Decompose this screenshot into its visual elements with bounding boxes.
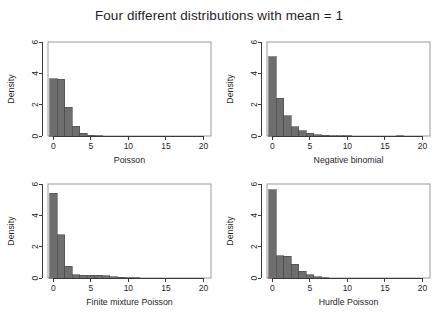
x-tick-label: 15 bbox=[161, 141, 171, 151]
histogram-bar bbox=[269, 190, 277, 278]
x-tick-label: 5 bbox=[307, 141, 312, 151]
histogram-bar bbox=[72, 126, 80, 136]
x-tick-label: 0 bbox=[270, 141, 275, 151]
y-tick-label: 6 bbox=[249, 181, 259, 186]
histogram-bar bbox=[72, 275, 80, 278]
x-tick-label: 5 bbox=[88, 283, 93, 293]
y-tick-label: 4 bbox=[30, 71, 40, 76]
histogram-bar bbox=[57, 235, 65, 278]
x-axis-title: Negative binomial bbox=[314, 155, 384, 165]
histogram-bar bbox=[306, 275, 314, 278]
histogram-bar bbox=[276, 256, 284, 278]
y-tick-label: 0 bbox=[30, 275, 40, 280]
y-tick-label: 2 bbox=[249, 102, 259, 107]
chart-panel-negative-binomial: 051015200246Negative binomialDensity bbox=[219, 28, 438, 174]
plot-svg: 051015200246Hurdle PoissonDensity bbox=[219, 170, 438, 316]
y-axis-title: Density bbox=[6, 74, 16, 104]
x-tick-label: 15 bbox=[380, 283, 390, 293]
y-axis-title: Density bbox=[225, 74, 235, 104]
histogram-bar bbox=[50, 79, 58, 136]
y-tick-label: 4 bbox=[30, 213, 40, 218]
y-tick-label: 4 bbox=[249, 213, 259, 218]
x-tick-label: 20 bbox=[418, 283, 428, 293]
histogram-bar bbox=[299, 131, 307, 136]
histogram-bar bbox=[50, 193, 58, 278]
histogram-bar bbox=[284, 116, 292, 136]
y-axis-title: Density bbox=[6, 216, 16, 246]
x-tick-label: 15 bbox=[380, 141, 390, 151]
chart-panel-poisson: 051015200246PoissonDensity bbox=[0, 28, 219, 174]
y-tick-label: 2 bbox=[30, 102, 40, 107]
x-tick-label: 0 bbox=[270, 283, 275, 293]
plot-svg: 051015200246PoissonDensity bbox=[0, 28, 219, 174]
plot-frame bbox=[267, 184, 430, 278]
x-axis-title: Poisson bbox=[114, 155, 145, 165]
histogram-bar bbox=[291, 127, 299, 136]
histogram-bar bbox=[276, 98, 284, 136]
x-tick-label: 0 bbox=[51, 141, 56, 151]
x-axis-title: Finite mixture Poisson bbox=[86, 297, 173, 307]
x-tick-label: 20 bbox=[199, 283, 209, 293]
x-axis-title: Hurdle Poisson bbox=[319, 297, 379, 307]
y-tick-label: 4 bbox=[249, 71, 259, 76]
histogram-bar bbox=[57, 79, 65, 136]
chart-panel-hurdle-poisson: 051015200246Hurdle PoissonDensity bbox=[219, 170, 438, 316]
x-tick-label: 20 bbox=[199, 141, 209, 151]
x-tick-label: 0 bbox=[51, 283, 56, 293]
x-tick-label: 10 bbox=[343, 283, 353, 293]
plot-frame bbox=[267, 42, 430, 136]
y-tick-label: 6 bbox=[30, 181, 40, 186]
y-tick-label: 0 bbox=[249, 133, 259, 138]
plot-frame bbox=[48, 42, 211, 136]
x-tick-label: 5 bbox=[88, 141, 93, 151]
x-tick-label: 5 bbox=[307, 283, 312, 293]
figure-canvas: Four different distributions with mean =… bbox=[0, 0, 438, 316]
plot-svg: 051015200246Finite mixture PoissonDensit… bbox=[0, 170, 219, 316]
plot-svg: 051015200246Negative binomialDensity bbox=[219, 28, 438, 174]
plot-frame bbox=[48, 184, 211, 278]
figure-title: Four different distributions with mean =… bbox=[0, 8, 438, 23]
y-tick-label: 6 bbox=[249, 39, 259, 44]
y-tick-label: 0 bbox=[249, 275, 259, 280]
x-tick-label: 15 bbox=[161, 283, 171, 293]
x-tick-label: 10 bbox=[343, 141, 353, 151]
histogram-bar bbox=[65, 266, 73, 278]
y-axis-title: Density bbox=[225, 216, 235, 246]
histogram-bar bbox=[291, 264, 299, 278]
y-tick-label: 0 bbox=[30, 133, 40, 138]
histogram-bar bbox=[299, 271, 307, 278]
y-tick-label: 2 bbox=[30, 244, 40, 249]
y-tick-label: 2 bbox=[249, 244, 259, 249]
histogram-bar bbox=[65, 107, 73, 136]
x-tick-label: 10 bbox=[124, 141, 134, 151]
histogram-bar bbox=[284, 256, 292, 278]
histogram-bar bbox=[269, 57, 277, 136]
chart-panel-finite-mixture-poisson: 051015200246Finite mixture PoissonDensit… bbox=[0, 170, 219, 316]
x-tick-label: 10 bbox=[124, 283, 134, 293]
x-tick-label: 20 bbox=[418, 141, 428, 151]
y-tick-label: 6 bbox=[30, 39, 40, 44]
